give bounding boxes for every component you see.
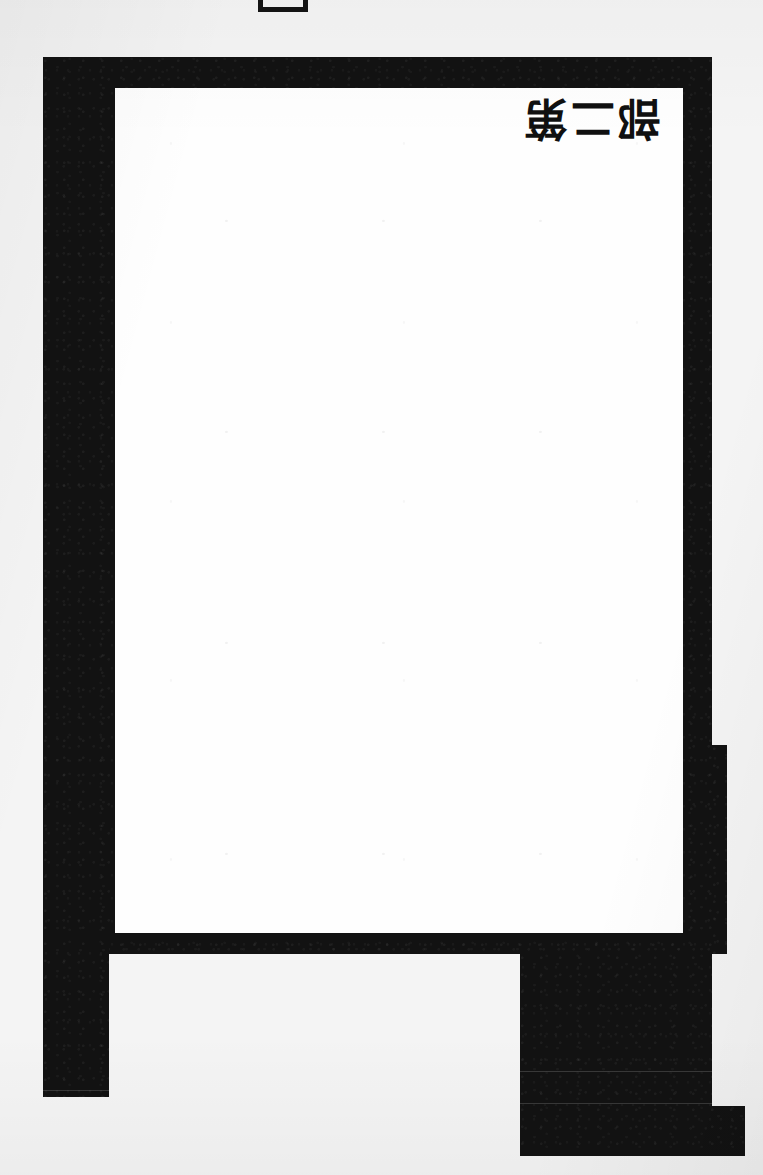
ink-texture [43, 940, 109, 1097]
title-char-1: 第 [527, 96, 574, 142]
left-vertical-bar [43, 940, 109, 1097]
lower-right-block [520, 954, 712, 1106]
scanned-page-canvas: 第 二 部 [0, 0, 763, 1175]
bottom-step-bar [520, 1106, 745, 1156]
vertical-title: 第 二 部 [527, 96, 667, 142]
register-mark-icon [258, 0, 308, 12]
ink-texture [712, 745, 727, 954]
ink-texture [520, 1106, 745, 1156]
white-page-area: 第 二 部 [115, 88, 683, 933]
ink-texture [520, 954, 712, 1106]
title-char-2: 二 [574, 96, 621, 142]
right-edge-step [712, 745, 727, 954]
title-char-3: 部 [620, 96, 667, 142]
